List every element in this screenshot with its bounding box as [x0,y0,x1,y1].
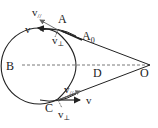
label-A: A [58,12,67,26]
label-v-top: v [25,23,31,35]
label-C: C [45,101,53,115]
label-vperp-top: v⊥ [52,34,64,48]
vector-vperp-bottom [58,100,62,108]
orbit-diagram: A A0 B C D O v// v v⊥ v// v v⊥ [0,0,158,128]
label-D: D [93,66,102,80]
label-v-bottom: v [86,94,92,106]
label-vperp-bottom: v⊥ [58,108,70,122]
label-vpar-top: v// [32,6,41,20]
label-vpar-bottom: v// [64,83,73,97]
label-B: B [6,59,14,73]
label-O: O [140,66,149,80]
label-A0: A0 [82,29,95,45]
vector-A0-arrow [62,31,82,40]
